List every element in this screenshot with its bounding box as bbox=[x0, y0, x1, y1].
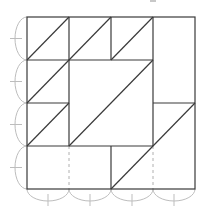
quilt-block-diagram bbox=[0, 0, 207, 219]
diagonal-top-left bbox=[27, 17, 69, 60]
bottom-guide-arcs bbox=[27, 189, 195, 206]
cropped-mark bbox=[150, 0, 156, 2]
diagonal-top-right bbox=[111, 17, 153, 60]
diagonal-left-row3 bbox=[27, 103, 69, 146]
left-guide-arcs bbox=[10, 17, 27, 189]
diagonal-center bbox=[69, 60, 153, 146]
